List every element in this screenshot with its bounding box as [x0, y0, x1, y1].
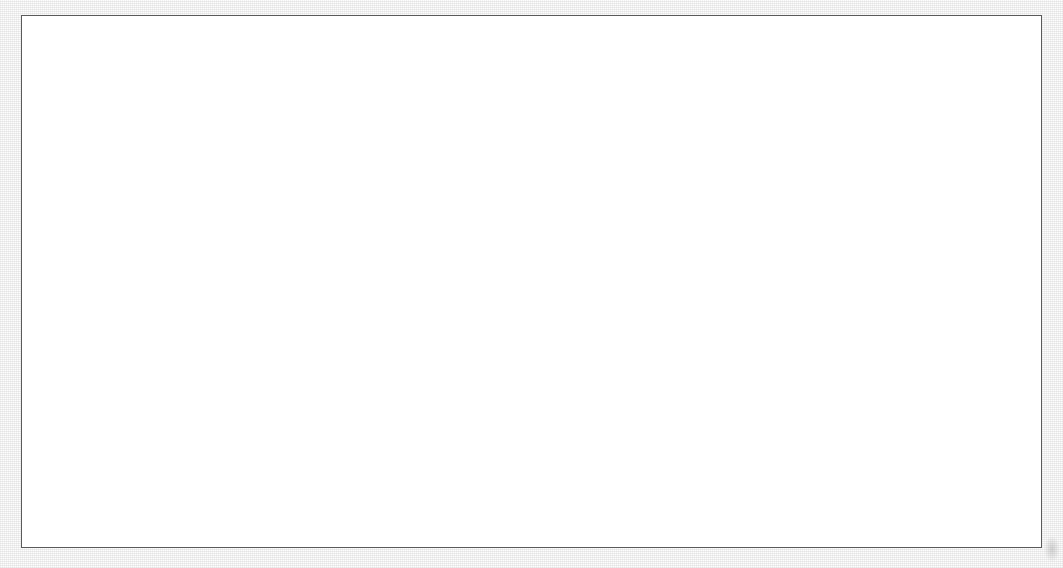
corner-scan-artifact	[1044, 536, 1060, 562]
image-border-frame	[21, 15, 1042, 548]
page-root	[0, 0, 1063, 568]
